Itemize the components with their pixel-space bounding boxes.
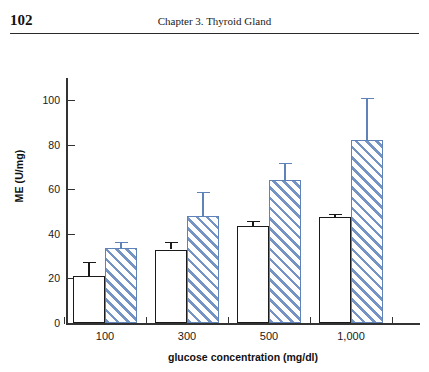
y-axis-tick <box>68 145 75 146</box>
y-axis-tick-label: 40 <box>20 229 60 240</box>
x-axis-tick <box>392 317 393 324</box>
bar <box>269 180 301 323</box>
bar <box>73 276 105 323</box>
y-axis-tick <box>68 189 75 190</box>
bar <box>155 250 187 324</box>
running-head: Chapter 3. Thyroid Gland <box>0 15 429 27</box>
page-header: 102 Chapter 3. Thyroid Gland <box>0 0 429 40</box>
error-bar-cap <box>83 262 96 263</box>
x-axis-tick <box>310 317 311 324</box>
x-axis-category-label: 500 <box>234 330 304 342</box>
x-axis-tick <box>146 317 147 324</box>
y-axis-line <box>66 78 68 324</box>
error-bar-cap <box>361 98 374 99</box>
x-axis-title: glucose concentration (mg/dl) <box>66 351 420 363</box>
y-axis-tick <box>68 100 75 101</box>
bar <box>351 140 383 323</box>
x-axis-tick <box>64 317 65 324</box>
header-divider <box>10 33 419 34</box>
x-axis-category-label: 100 <box>70 330 140 342</box>
error-bar-stem <box>284 163 285 181</box>
x-axis-tick <box>228 317 229 324</box>
error-bar-stem <box>202 192 203 217</box>
error-bar-stem <box>88 262 89 276</box>
bar <box>237 226 269 323</box>
x-axis-line <box>66 323 420 325</box>
bar <box>319 217 351 323</box>
y-axis-title: ME (U/mg) <box>13 121 25 231</box>
error-bar-cap <box>197 192 210 193</box>
error-bar-cap <box>115 242 128 243</box>
x-axis-category-label: 1,000 <box>316 330 386 342</box>
y-axis-tick <box>68 234 75 235</box>
bar-chart-figure: ME (U/mg) glucose concentration (mg/dl) … <box>0 40 429 372</box>
error-bar-cap <box>165 242 178 243</box>
error-bar-stem <box>366 98 367 140</box>
y-axis-tick-label: 20 <box>20 273 60 284</box>
y-axis-tick-label: 100 <box>20 95 60 106</box>
y-axis-tick-label: 0 <box>20 318 60 329</box>
bar <box>105 248 137 323</box>
error-bar-cap <box>247 221 260 222</box>
error-bar-cap <box>279 163 292 164</box>
x-axis-category-label: 300 <box>152 330 222 342</box>
y-axis-tick-label: 60 <box>20 184 60 195</box>
y-axis-tick-label: 80 <box>20 140 60 151</box>
bar <box>187 216 219 323</box>
y-axis-tick <box>68 323 75 324</box>
error-bar-cap <box>329 214 342 215</box>
